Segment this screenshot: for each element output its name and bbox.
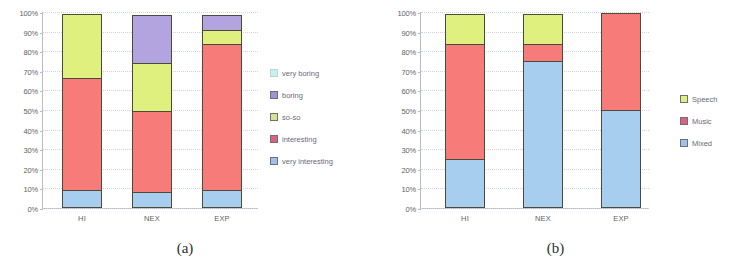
bar-segment[interactable] (132, 63, 172, 112)
bar-exp[interactable]: EXP (601, 12, 641, 208)
y-axis-tick-label: 0% (406, 205, 416, 214)
x-axis-tick-label: NEX (523, 214, 563, 223)
y-axis-tick-label: 70% (24, 67, 38, 76)
legend-label: Speech (692, 95, 717, 104)
y-axis-tick-label: 50% (402, 107, 416, 116)
subfigure-b-caption: (b) (370, 240, 741, 257)
y-axis-tick-label: 30% (24, 146, 38, 155)
y-axis-tick-label: 40% (24, 126, 38, 135)
subfigure-b: 100%90%80%70%60%50%40%30%20%10%0% HINEXE… (370, 0, 741, 259)
bar-segment[interactable] (202, 44, 242, 191)
y-axis-tick-label: 100% (20, 9, 38, 18)
chart-b-legend: SpeechMusicMixed (680, 88, 717, 154)
y-axis-tick-label: 20% (402, 165, 416, 174)
y-axis-tick-label: 60% (402, 87, 416, 96)
legend-label: Music (692, 117, 712, 126)
y-axis-tick-label: 30% (402, 146, 416, 155)
bar-hi[interactable]: HI (445, 12, 485, 208)
y-axis-tick-mark (418, 209, 421, 210)
subfigure-a-caption: (a) (0, 240, 370, 257)
legend-label: boring (282, 91, 303, 100)
legend-item[interactable]: Mixed (680, 132, 717, 154)
x-axis-tick-label: HI (445, 214, 485, 223)
legend-item[interactable]: Music (680, 110, 717, 132)
bar-segment[interactable] (202, 30, 242, 46)
y-axis-tick-label: 80% (24, 48, 38, 57)
bar-segment[interactable] (132, 192, 172, 208)
bar-segment[interactable] (601, 110, 641, 208)
legend-item[interactable]: very boring (270, 62, 333, 84)
y-axis-tick-label: 80% (402, 48, 416, 57)
legend-item[interactable]: interesting (270, 128, 333, 150)
bar-hi[interactable]: HI (62, 12, 102, 208)
bar-segment[interactable] (523, 14, 563, 45)
bar-segment[interactable] (523, 61, 563, 208)
x-axis-tick-label: EXP (601, 214, 641, 223)
y-axis-tick-label: 50% (24, 107, 38, 116)
chart-a-bars: HINEXEXP (43, 12, 258, 208)
bar-nex[interactable]: NEX (523, 12, 563, 208)
legend-label: very interesting (282, 157, 333, 166)
legend-swatch-icon (270, 157, 278, 165)
bar-segment[interactable] (132, 15, 172, 64)
bar-segment[interactable] (202, 190, 242, 208)
chart-a-plot: 100%90%80%70%60%50%40%30%20%10%0% HINEXE… (42, 12, 258, 209)
chart-a-legend: very boringboringso-sointerestingvery in… (270, 62, 333, 172)
y-axis-tick-label: 70% (402, 67, 416, 76)
legend-swatch-icon (270, 69, 278, 77)
legend-swatch-icon (680, 95, 688, 103)
y-axis-tick-label: 20% (24, 165, 38, 174)
y-axis-tick-label: 90% (24, 28, 38, 37)
y-axis-tick-label: 60% (24, 87, 38, 96)
legend-item[interactable]: Speech (680, 88, 717, 110)
x-axis-tick-label: HI (62, 214, 102, 223)
bar-segment[interactable] (62, 78, 102, 192)
x-axis-tick-label: EXP (202, 214, 242, 223)
bar-segment[interactable] (62, 190, 102, 208)
y-axis-tick-label: 40% (402, 126, 416, 135)
y-axis-tick-label: 0% (28, 205, 38, 214)
legend-label: so-so (282, 113, 300, 122)
legend-label: interesting (282, 135, 317, 144)
bar-segment[interactable] (62, 14, 102, 79)
subfigure-a: 100%90%80%70%60%50%40%30%20%10%0% HINEXE… (0, 0, 370, 259)
bar-segment[interactable] (445, 159, 485, 208)
legend-item[interactable]: boring (270, 84, 333, 106)
legend-swatch-icon (270, 113, 278, 121)
bar-segment[interactable] (202, 15, 242, 31)
legend-swatch-icon (270, 91, 278, 99)
legend-swatch-icon (270, 135, 278, 143)
bar-segment[interactable] (445, 14, 485, 45)
y-axis-tick-label: 100% (398, 9, 416, 18)
x-axis-tick-label: NEX (132, 214, 172, 223)
bar-segment[interactable] (523, 44, 563, 62)
legend-swatch-icon (680, 139, 688, 147)
y-axis-tick-label: 10% (402, 185, 416, 194)
legend-label: Mixed (692, 139, 712, 148)
legend-item[interactable]: very interesting (270, 150, 333, 172)
legend-swatch-icon (680, 117, 688, 125)
chart-b-plot: 100%90%80%70%60%50%40%30%20%10%0% HINEXE… (420, 12, 649, 209)
gridline: 0% (43, 208, 258, 209)
y-axis-tick-label: 90% (402, 28, 416, 37)
legend-label: very boring (282, 69, 319, 78)
bar-segment[interactable] (445, 44, 485, 160)
bar-segment[interactable] (601, 13, 641, 111)
legend-item[interactable]: so-so (270, 106, 333, 128)
y-axis-tick-label: 10% (24, 185, 38, 194)
figure-row: 100%90%80%70%60%50%40%30%20%10%0% HINEXE… (0, 0, 741, 259)
bar-segment[interactable] (132, 111, 172, 193)
y-axis-tick-mark (40, 209, 43, 210)
bar-exp[interactable]: EXP (202, 12, 242, 208)
chart-b-bars: HINEXEXP (421, 12, 649, 208)
gridline: 0% (421, 208, 649, 209)
bar-nex[interactable]: NEX (132, 12, 172, 208)
